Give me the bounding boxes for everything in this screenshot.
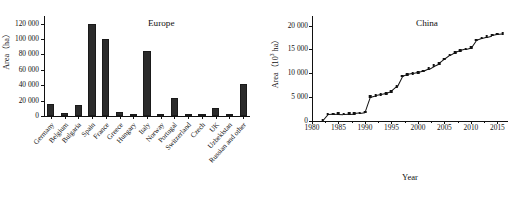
china-x-tick-label: 2000 — [411, 124, 426, 131]
china-x-minor-tick — [431, 121, 432, 123]
china-y-tick-label: 10 000 — [288, 70, 308, 77]
china-y-tick — [309, 73, 312, 74]
china-x-axis-title: Year — [402, 172, 418, 182]
europe-y-axis-title: Area（ha） — [0, 30, 11, 70]
china-x-minor-tick — [325, 121, 326, 123]
europe-x-tick — [174, 116, 175, 119]
china-data-point — [411, 72, 414, 75]
china-data-point — [427, 67, 430, 70]
europe-x-tick — [243, 116, 244, 119]
europe-x-tick — [188, 116, 189, 119]
china-data-point — [327, 113, 330, 116]
china-data-point — [395, 85, 398, 88]
europe-y-tick — [41, 24, 44, 25]
europe-bar — [88, 24, 95, 116]
china-x-tick-label: 2005 — [437, 124, 452, 131]
figure-container: Europe Area（ha） 020 00040 00060 00080 00… — [0, 0, 532, 197]
china-data-point — [459, 49, 462, 52]
china-data-point — [480, 37, 483, 40]
china-data-point — [417, 71, 420, 74]
panel-china: China Area（103 ha） Year 05 00010 00015 0… — [266, 0, 532, 197]
china-x-minor-tick — [405, 121, 406, 123]
europe-y-tick — [41, 54, 44, 55]
china-x-tick-label: 2015 — [490, 124, 505, 131]
europe-bar-group — [44, 16, 250, 116]
china-data-point — [348, 112, 351, 115]
europe-y-tick-label: 20 000 — [19, 97, 39, 104]
europe-x-tick — [92, 116, 93, 119]
europe-y-tick — [41, 39, 44, 40]
china-data-point — [501, 32, 504, 35]
china-data-point — [486, 35, 489, 38]
china-x-tick-label: 1980 — [305, 124, 320, 131]
china-data-point — [364, 111, 367, 114]
china-plot-area: 05 00010 00015 00020 000 198019851990199… — [312, 16, 508, 122]
china-data-point — [491, 34, 494, 37]
europe-category-label: Czech — [189, 121, 207, 140]
china-y-tick — [309, 97, 312, 98]
europe-bar — [212, 108, 219, 116]
europe-y-tick — [41, 116, 44, 117]
china-x-minor-tick — [378, 121, 379, 123]
europe-bar — [240, 84, 247, 116]
china-data-point — [464, 48, 467, 51]
china-data-point — [433, 64, 436, 67]
china-y-tick — [309, 49, 312, 50]
china-x-axis-line — [312, 121, 508, 122]
china-x-tick-label: 1995 — [384, 124, 399, 131]
china-y-axis-line — [312, 16, 313, 122]
china-x-tick-label: 1985 — [331, 124, 346, 131]
europe-y-tick-label: 120 000 — [15, 20, 39, 27]
europe-x-tick — [51, 116, 52, 119]
europe-x-tick — [229, 116, 230, 119]
europe-x-tick — [147, 116, 148, 119]
europe-y-tick — [41, 70, 44, 71]
europe-y-tick-label: 0 — [35, 112, 39, 119]
europe-y-tick — [41, 101, 44, 102]
europe-x-tick — [161, 116, 162, 119]
europe-bar — [102, 39, 109, 116]
china-data-point — [470, 46, 473, 49]
china-y-axis-title: Area（103 ha） — [268, 36, 280, 89]
europe-y-tick-label: 100 000 — [15, 35, 39, 42]
panel-europe: Europe Area（ha） 020 00040 00060 00080 00… — [0, 0, 266, 197]
china-data-point — [332, 113, 335, 116]
europe-bar — [75, 105, 82, 116]
china-data-point — [406, 73, 409, 76]
china-data-point — [443, 58, 446, 61]
china-x-minor-tick — [352, 121, 353, 123]
china-data-point — [369, 95, 372, 98]
europe-x-tick — [216, 116, 217, 119]
china-data-point — [374, 94, 377, 97]
europe-x-tick — [120, 116, 121, 119]
china-data-point — [385, 92, 388, 95]
china-x-minor-tick — [458, 121, 459, 123]
europe-x-tick — [133, 116, 134, 119]
china-data-point — [337, 112, 340, 115]
china-data-point — [358, 112, 361, 115]
europe-plot-area: 020 00040 00060 00080 000100 000120 000 … — [44, 16, 250, 117]
europe-x-tick — [202, 116, 203, 119]
china-data-point — [390, 90, 393, 93]
europe-y-tick — [41, 85, 44, 86]
europe-y-tick-label: 40 000 — [19, 82, 39, 89]
europe-bar — [171, 98, 178, 116]
china-x-tick-label: 2010 — [464, 124, 479, 131]
china-y-tick-label: 20 000 — [288, 22, 308, 29]
china-data-point — [401, 75, 404, 78]
china-data-point — [496, 33, 499, 36]
china-data-point — [380, 93, 383, 96]
china-x-tick-label: 1990 — [358, 124, 373, 131]
china-data-point — [353, 112, 356, 115]
china-y-tick — [309, 26, 312, 27]
europe-x-tick — [78, 116, 79, 119]
europe-bar — [143, 51, 150, 116]
china-y-tick-label: 15 000 — [288, 46, 308, 53]
china-data-point — [475, 39, 478, 42]
china-y-tick-label: 5 000 — [291, 93, 308, 100]
china-data-point — [438, 62, 441, 65]
europe-y-tick-label: 80 000 — [19, 51, 39, 58]
china-data-point — [422, 70, 425, 73]
europe-y-tick-label: 60 000 — [19, 66, 39, 73]
china-x-minor-tick — [484, 121, 485, 123]
